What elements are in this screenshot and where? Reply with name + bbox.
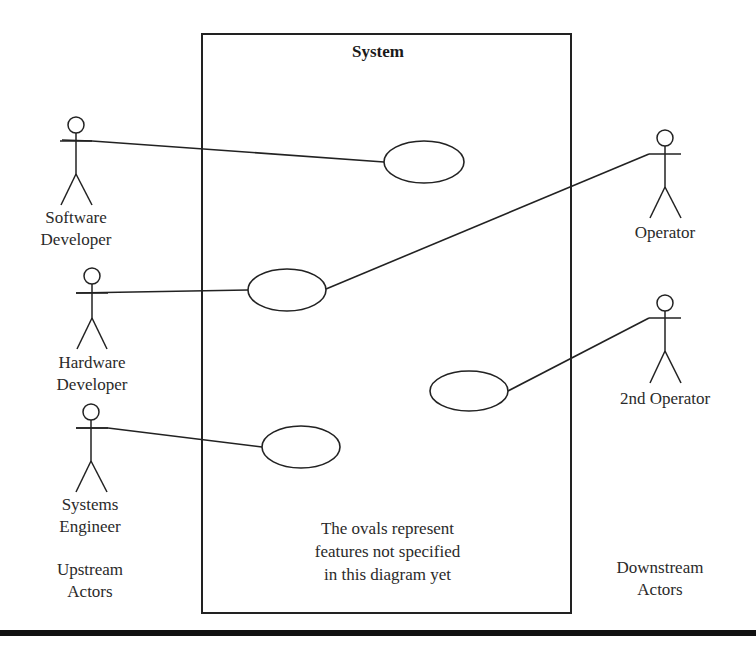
actor-label-2nd-operator: 2nd Operator <box>600 388 730 410</box>
system-title: System <box>352 42 404 62</box>
actor-label-systems-engineer: Systems Engineer <box>30 494 150 538</box>
association-lines <box>62 140 649 447</box>
actor-icon-hardware-developer[interactable] <box>76 268 108 349</box>
downstream-actors-label: Downstream Actors <box>595 557 725 601</box>
actor-label-software-developer: Software Developer <box>16 207 136 251</box>
upstream-actors-label: Upstream Actors <box>30 559 150 603</box>
use-case-oval-1[interactable] <box>384 141 464 183</box>
actor-icon-systems-engineer[interactable] <box>76 404 108 492</box>
actor-label-operator: Operator <box>600 222 730 244</box>
actor-icon-operator[interactable] <box>649 130 681 218</box>
association-2nd-operator <box>508 318 649 391</box>
system-note: The ovals represent features not specifi… <box>240 517 535 586</box>
association-systems-engineer <box>76 428 262 447</box>
use-case-oval-4[interactable] <box>262 426 340 468</box>
association-software-developer <box>62 140 384 162</box>
use-case-oval-3[interactable] <box>430 371 508 411</box>
actor-icon-2nd-operator[interactable] <box>649 295 681 383</box>
use-case-oval-2[interactable] <box>248 269 326 311</box>
bottom-divider <box>0 630 756 636</box>
actor-label-hardware-developer: Hardware Developer <box>32 352 152 396</box>
actor-icon-software-developer[interactable] <box>60 117 92 205</box>
